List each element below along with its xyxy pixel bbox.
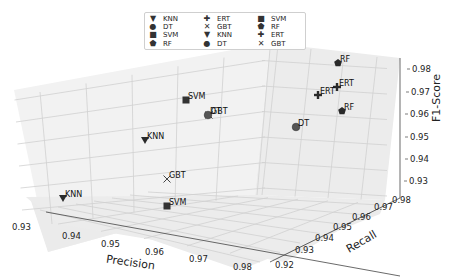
y-tick-label: 0.93 (295, 245, 314, 255)
y-tick-label: 0.94 (315, 233, 334, 243)
legend-item: ✕GBT (203, 23, 257, 31)
legend-label: RF (271, 23, 280, 31)
chart-legend: ▼KNN ✚ERT ■SVM ●DT ✕GBT ⬟RF ■SVM ▼KNN ✚E… (144, 12, 306, 50)
x-tick-label: 0.95 (101, 239, 120, 249)
legend-item: ■SVM (149, 31, 203, 39)
point-label: ERT (320, 87, 335, 96)
point-label: KNN (65, 190, 82, 199)
legend-item: ■SVM (257, 15, 309, 23)
y-tick-label: 0.95 (333, 222, 352, 232)
x-tick-label: 0.94 (62, 231, 81, 241)
legend-label: ERT (217, 15, 230, 23)
legend-item: ✚ERT (257, 31, 309, 39)
legend-label: GBT (271, 40, 286, 48)
y-tick-label: 0.96 (352, 212, 371, 222)
x-tick-label: 0.97 (189, 254, 208, 264)
legend-item: ✚ERT (203, 15, 257, 23)
legend-label: GBT (217, 23, 232, 31)
legend-grid: ▼KNN ✚ERT ■SVM ●DT ✕GBT ⬟RF ■SVM ▼KNN ✚E… (145, 13, 305, 48)
z-tick-label: 0.95 (410, 132, 429, 142)
legend-item: ▼KNN (203, 31, 257, 39)
z-tick-label: 0.94 (410, 154, 429, 164)
legend-label: DT (163, 23, 173, 31)
z-tick-label: 0.97 (411, 87, 430, 97)
y-tick-label: 0.98 (392, 195, 411, 205)
legend-label: KNN (163, 15, 178, 23)
pentagon-marker-icon: ⬟ (149, 40, 157, 48)
legend-label: SVM (271, 15, 286, 23)
legend-label: RF (163, 40, 172, 48)
x-tick-label: 0.96 (145, 247, 164, 257)
x-tick-label: 0.93 (12, 222, 31, 232)
legend-item: ⬟RF (257, 23, 309, 31)
pane-right (255, 43, 400, 200)
legend-label: DT (217, 40, 227, 48)
legend-label: KNN (217, 31, 232, 39)
legend-item: ▼KNN (149, 15, 203, 23)
point-label: RF (344, 103, 355, 112)
point-label: KNN (147, 132, 164, 141)
circle-marker-icon: ● (203, 40, 211, 48)
point-label: GBT (169, 171, 186, 180)
x-tick-label: 0.98 (233, 262, 252, 272)
point-label: SVM (169, 198, 187, 207)
legend-label: SVM (163, 31, 178, 39)
legend-item: ●DT (149, 23, 203, 31)
y-tick-label: 0.92 (275, 260, 294, 270)
legend-item: ●DT (203, 40, 257, 48)
y-tick-label: 0.97 (374, 202, 393, 212)
z-tick-label: 0.98 (412, 64, 431, 74)
z-axis-label: F1-Score (430, 74, 443, 122)
y-axis-label: Recall (344, 228, 379, 256)
z-tick-label: 0.96 (410, 109, 429, 119)
x-marker-icon: ✕ (257, 40, 265, 48)
legend-label: ERT (271, 31, 284, 39)
legend-item: ✕GBT (257, 40, 309, 48)
point-label: SVM (188, 92, 206, 101)
point-label: ERT (339, 79, 354, 88)
legend-item: ⬟RF (149, 40, 203, 48)
point-label: RF (340, 55, 351, 64)
point-label: DT (298, 119, 309, 128)
point-label: DT (210, 107, 221, 116)
z-tick-label: 0.93 (409, 176, 428, 186)
